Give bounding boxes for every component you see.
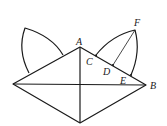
label-E: E [119, 75, 126, 86]
point-E [130, 74, 132, 76]
label-F: F [133, 17, 141, 28]
point-D [112, 64, 114, 66]
label-A: A [75, 36, 83, 47]
label-D: D [102, 66, 111, 77]
left-ear-arc [22, 28, 63, 73]
label-B: B [150, 80, 156, 91]
label-C: C [86, 56, 93, 67]
point-C [95, 54, 97, 56]
segment-FD [113, 30, 135, 65]
geometry-diagram: A B C D E F [0, 0, 167, 126]
